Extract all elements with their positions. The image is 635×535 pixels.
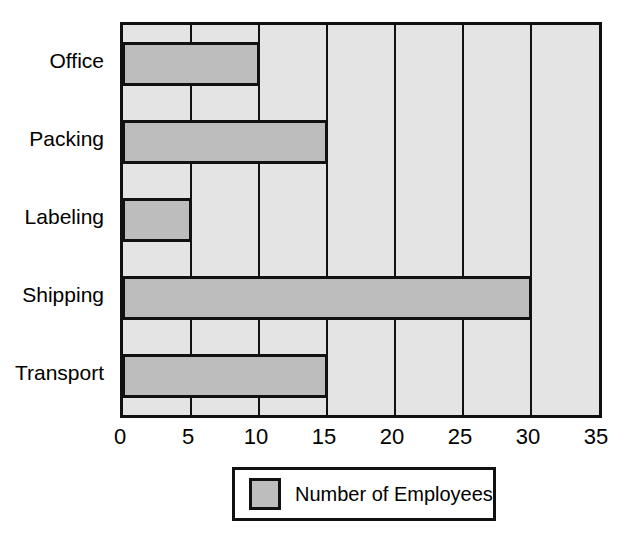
bar-packing[interactable] xyxy=(122,120,328,164)
x-axis-tick-5: 5 xyxy=(182,424,194,450)
x-axis-tick-20: 20 xyxy=(380,424,404,450)
bar-shipping[interactable] xyxy=(122,276,532,320)
bars-layer xyxy=(123,25,599,415)
x-axis-tick-10: 10 xyxy=(244,424,268,450)
x-axis-tick-0: 0 xyxy=(114,424,126,450)
legend-label-number-of-employees: Number of Employees xyxy=(295,483,493,505)
x-axis-tick-30: 30 xyxy=(516,424,540,450)
x-axis-tick-35: 35 xyxy=(584,424,608,450)
x-axis-tick-labels: 0 5 10 15 20 25 30 35 xyxy=(120,424,602,456)
bar-labeling[interactable] xyxy=(122,198,192,242)
x-axis-tick-15: 15 xyxy=(312,424,336,450)
x-axis-tick-25: 25 xyxy=(448,424,472,450)
y-axis-label-labeling: Labeling xyxy=(25,206,104,227)
y-axis-label-office: Office xyxy=(50,50,104,71)
bar-office[interactable] xyxy=(122,42,260,86)
y-axis-label-transport: Transport xyxy=(15,362,104,383)
bar-transport[interactable] xyxy=(122,354,328,398)
y-axis-label-packing: Packing xyxy=(29,128,104,149)
bar-chart: Office Packing Labeling Shipping Transpo… xyxy=(0,0,635,535)
y-axis-label-shipping: Shipping xyxy=(22,284,104,305)
y-axis-category-labels: Office Packing Labeling Shipping Transpo… xyxy=(0,22,112,418)
legend: Number of Employees xyxy=(232,467,496,521)
legend-swatch-number-of-employees xyxy=(249,478,281,510)
plot-area xyxy=(120,22,602,418)
